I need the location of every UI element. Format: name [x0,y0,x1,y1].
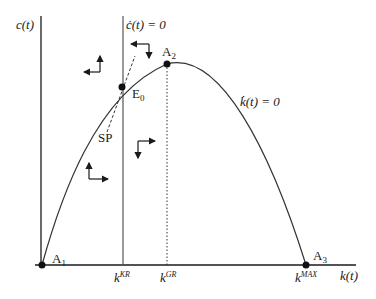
point-a2-label: A2 [162,44,176,61]
y-axis-label: c(t) [16,17,34,32]
tick-k-kr: kKR [114,270,130,285]
saddle-path-line [107,56,135,132]
k-dot-locus-label: k̇(t) = 0 [240,94,280,109]
arrows-lower-left [89,163,108,179]
point-a3-label: A3 [313,248,327,265]
point-a3 [303,262,310,269]
point-a1-label: A1 [52,251,66,268]
arrows-upper-left [84,56,100,72]
tick-k-max: kMAX [295,270,318,285]
x-axis-label: k(t) [340,268,358,283]
arrows-top [131,44,149,58]
phase-diagram: c(t) k(t) ċ(t) = 0 k̇(t) = 0 SP A1 A2 E0… [0,0,376,299]
point-a1 [39,262,46,269]
tick-k-gr: kGR [160,270,177,285]
arrows-lower-right [138,141,155,158]
point-e0 [119,84,126,91]
point-e0-label: E0 [132,86,145,103]
saddle-path-label: SP [98,130,112,145]
point-a2 [164,61,171,68]
c-dot-locus-label: ċ(t) = 0 [126,17,166,32]
